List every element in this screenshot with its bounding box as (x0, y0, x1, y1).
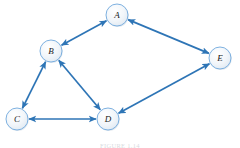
figure-caption: FIGURE 1.14 (0, 142, 240, 148)
graph-node-c[interactable]: C (6, 108, 29, 131)
node-label-b: B (48, 46, 54, 56)
node-label-c: C (14, 114, 21, 124)
graph-node-e[interactable]: E (209, 47, 232, 70)
graph-node-d[interactable]: D (97, 108, 120, 131)
nodes-layer: ABCDE (6, 4, 232, 131)
edge-A-E (128, 20, 209, 54)
node-label-a: A (113, 10, 120, 20)
graph-diagram: ABCDE (0, 0, 240, 148)
edge-D-E (119, 64, 210, 114)
edge-B-D (59, 60, 101, 110)
node-label-d: D (104, 114, 112, 124)
graph-node-b[interactable]: B (40, 40, 63, 63)
node-label-e: E (216, 53, 223, 63)
graph-node-a[interactable]: A (106, 4, 129, 27)
edges-layer (22, 20, 209, 119)
edge-A-B (62, 21, 107, 46)
figure-container: ABCDE FIGURE 1.14 (0, 0, 240, 148)
edge-B-C (22, 62, 45, 109)
